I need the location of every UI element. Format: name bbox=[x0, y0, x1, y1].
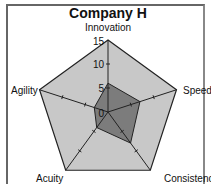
r-tick-10: 10 bbox=[93, 59, 105, 70]
axis-label-agility: Agility bbox=[11, 85, 38, 96]
r-tick-15: 15 bbox=[93, 36, 105, 47]
radar-chart: Company H Innovation Speed Consistency A… bbox=[0, 0, 211, 184]
axis-label-acuity: Acuity bbox=[36, 173, 63, 184]
r-tick-0: 0 bbox=[98, 108, 104, 119]
axis-label-consistency: Consistency bbox=[164, 173, 211, 184]
axis-label-innovation: Innovation bbox=[85, 22, 131, 33]
axis-label-speed: Speed bbox=[183, 85, 211, 96]
r-tick-5: 5 bbox=[98, 83, 104, 94]
chart-title: Company H bbox=[69, 5, 147, 21]
